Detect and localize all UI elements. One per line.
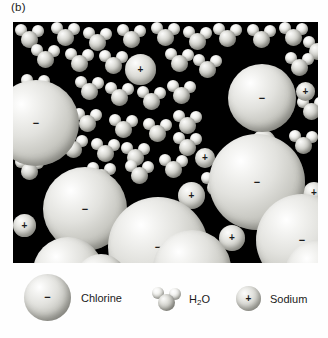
oxygen-atom (253, 31, 270, 48)
chloride-ion: − (13, 80, 79, 166)
oxygen-atom (149, 125, 166, 142)
water-molecule (75, 76, 105, 102)
oxygen-atom (111, 89, 128, 106)
water-molecule (167, 80, 197, 106)
oxygen-atom (71, 55, 88, 72)
oxygen-atom (285, 29, 302, 46)
oxygen-atom (171, 55, 188, 72)
legend-item-chlorine: − Chlorine (24, 274, 122, 321)
water-molecule-icon (152, 287, 182, 313)
chloride-ion-charge-sign: − (228, 64, 296, 132)
sodium-ion-charge-sign: + (125, 54, 156, 85)
oxygen-atom (143, 93, 160, 110)
water-formula-suffix: O (201, 293, 210, 305)
oxygen-atom (123, 31, 140, 48)
chloride-ion: − (153, 230, 231, 263)
sodium-ion: + (296, 82, 315, 101)
oxygen-atom (219, 30, 236, 47)
figure-root: (b) ++++++++++−−−−−−−−−− − Chlorine H2O (0, 0, 328, 338)
water-molecule (125, 160, 155, 186)
oxygen-atom (158, 294, 175, 311)
legend-label-sodium: Sodium (270, 293, 307, 305)
oxygen-atom (105, 57, 122, 74)
water-molecule (165, 48, 195, 74)
oxygen-atom (79, 115, 96, 132)
water-molecule (117, 24, 147, 50)
water-molecule (193, 54, 223, 80)
chloride-ion-charge-sign: − (285, 240, 318, 263)
oxygen-atom (157, 29, 174, 46)
oxygen-atom (97, 145, 114, 162)
legend-label-chlorine: Chlorine (81, 292, 122, 304)
water-molecule (137, 86, 167, 112)
chloride-ion: − (228, 64, 296, 132)
water-molecule (65, 48, 95, 74)
chlorine-ion-icon: − (24, 274, 71, 321)
legend-label-water: H2O (189, 293, 210, 307)
water-molecule (105, 82, 135, 108)
water-swatch (152, 287, 182, 313)
oxygen-atom (303, 103, 318, 120)
legend-item-water: H2O (152, 287, 210, 313)
water-molecule (109, 114, 139, 140)
water-formula-prefix: H (189, 293, 197, 305)
water-molecule (151, 22, 181, 48)
legend: − Chlorine H2O + Sodium (0, 268, 328, 334)
water-molecule (213, 23, 243, 49)
water-molecule (31, 44, 61, 70)
sodium-charge-sign: + (236, 286, 261, 311)
chloride-ion-charge-sign: − (13, 80, 79, 166)
sodium-ion-charge-sign: + (296, 82, 315, 101)
chloride-ion: − (285, 240, 318, 263)
oxygen-atom (37, 51, 54, 68)
solution-illustration-panel: ++++++++++−−−−−−−−−− (13, 22, 318, 263)
water-molecule (247, 24, 277, 50)
chloride-ion-charge-sign: − (153, 230, 231, 263)
oxygen-atom (165, 161, 182, 178)
sodium-ion: + (13, 214, 36, 237)
chloride-ion-charge-sign: − (75, 254, 127, 263)
water-molecule (143, 118, 173, 144)
chlorine-charge-sign: − (24, 274, 71, 321)
chloride-ion: − (75, 254, 127, 263)
oxygen-atom (199, 61, 216, 78)
oxygen-atom (131, 167, 148, 184)
water-molecule (159, 154, 189, 180)
water-molecule (91, 138, 121, 164)
chlorine-swatch: − (24, 274, 71, 321)
sodium-ion-icon: + (236, 286, 261, 311)
oxygen-atom (115, 121, 132, 138)
sodium-swatch: + (236, 286, 261, 311)
sodium-ion: + (125, 54, 156, 85)
oxygen-atom (81, 83, 98, 100)
legend-item-sodium: + Sodium (236, 286, 307, 311)
panel-label: (b) (11, 1, 26, 13)
sodium-ion-charge-sign: + (13, 214, 36, 237)
oxygen-atom (173, 87, 190, 104)
